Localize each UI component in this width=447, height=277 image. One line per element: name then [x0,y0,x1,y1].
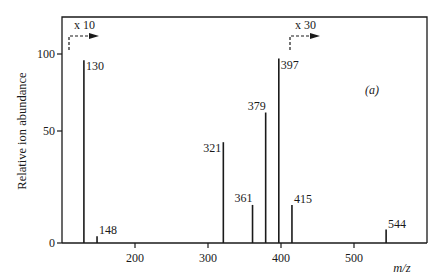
peak-label: 321 [203,141,221,155]
peak-label: 415 [294,192,312,206]
mass-spectrum-chart: 050100 200300400500 13014832136137939741… [0,0,447,277]
y-tick-label: 50 [43,124,55,138]
panel-label: (a) [365,83,379,97]
x-tick-label: 500 [345,251,363,265]
magnification-bracket [69,36,89,50]
x-tick-label: 300 [199,251,217,265]
peak-label: 397 [281,58,299,72]
peaks: 130148321361379397415544 [84,58,406,243]
x-axis: 200300400500 [126,243,363,265]
x-tick-label: 200 [126,251,144,265]
peak-label: 130 [86,59,104,73]
x-tick-label: 400 [272,251,290,265]
peak-label: 379 [248,99,266,113]
plot-frame [62,17,427,243]
peak-label: 544 [388,217,406,231]
y-axis: 050100 [37,47,62,250]
magnification-label: x 10 [74,18,95,32]
arrow-icon [310,33,320,39]
y-axis-title: Relative ion abundance [15,72,29,190]
arrow-icon [89,33,99,39]
peak-label: 148 [99,223,117,237]
x-axis-title: m/z [393,261,411,275]
peak-label: 361 [235,191,253,205]
y-tick-label: 100 [37,47,55,61]
frame-border [62,17,427,243]
annotations: x 10x 30 [69,18,320,50]
magnification-bracket [290,36,310,50]
magnification-label: x 30 [295,18,316,32]
y-tick-label: 0 [49,236,55,250]
